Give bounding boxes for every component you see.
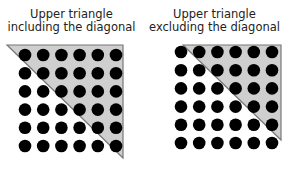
matrix-element-dot <box>248 46 261 59</box>
matrix-element-dot <box>110 49 123 62</box>
matrix-element-dot <box>266 46 279 59</box>
matrix-element-dot <box>92 140 105 153</box>
panel-excluding-diagonal: Upper triangle excluding the diagonal <box>143 0 286 169</box>
matrix-element-dot <box>37 49 50 62</box>
matrix-element-dot <box>19 85 32 98</box>
matrix-element-dot <box>92 103 105 116</box>
matrix-element-dot <box>211 119 224 132</box>
matrix-element-dot <box>19 103 32 116</box>
matrix-element-dot <box>266 119 279 132</box>
matrix-element-dot <box>73 122 86 135</box>
matrix-element-dot <box>193 64 206 77</box>
matrix-element-dot <box>19 122 32 135</box>
matrix-element-dot <box>110 122 123 135</box>
matrix-element-dot <box>229 46 242 59</box>
matrix-element-dot <box>55 140 68 153</box>
matrix-element-dot <box>193 119 206 132</box>
matrix-element-dot <box>19 67 32 80</box>
matrix-element-dot <box>110 103 123 116</box>
matrix-element-dot <box>55 122 68 135</box>
matrix-element-dot <box>73 103 86 116</box>
matrix-element-dot <box>229 137 242 150</box>
matrix-element-dot <box>229 100 242 113</box>
matrix-element-dot <box>175 64 188 77</box>
matrix-element-dot <box>110 140 123 153</box>
matrix-element-dot <box>211 82 224 95</box>
matrix-element-dot <box>211 46 224 59</box>
matrix-element-dot <box>73 49 86 62</box>
matrix-element-dot <box>92 122 105 135</box>
matrix-element-dot <box>248 64 261 77</box>
matrix-element-dot <box>110 67 123 80</box>
matrix-upper-triangle-incl <box>0 0 143 169</box>
matrix-element-dot <box>37 67 50 80</box>
matrix-element-dot <box>248 100 261 113</box>
matrix-element-dot <box>37 140 50 153</box>
matrix-element-dot <box>211 100 224 113</box>
matrix-element-dot <box>37 103 50 116</box>
matrix-element-dot <box>248 82 261 95</box>
matrix-element-dot <box>193 46 206 59</box>
matrix-element-dot <box>229 64 242 77</box>
matrix-element-dot <box>193 100 206 113</box>
matrix-element-dot <box>19 140 32 153</box>
matrix-element-dot <box>110 85 123 98</box>
matrix-element-dot <box>55 85 68 98</box>
panel-including-diagonal: Upper triangle including the diagonal <box>0 0 143 169</box>
matrix-element-dot <box>175 119 188 132</box>
matrix-element-dot <box>211 64 224 77</box>
matrix-element-dot <box>211 137 224 150</box>
matrix-upper-triangle-excl <box>143 0 286 169</box>
matrix-element-dot <box>175 100 188 113</box>
matrix-element-dot <box>175 137 188 150</box>
matrix-element-dot <box>55 67 68 80</box>
matrix-element-dot <box>266 137 279 150</box>
matrix-element-dot <box>266 82 279 95</box>
matrix-element-dot <box>229 119 242 132</box>
matrix-element-dot <box>55 103 68 116</box>
matrix-element-dot <box>73 140 86 153</box>
matrix-element-dot <box>229 82 242 95</box>
matrix-element-dot <box>92 49 105 62</box>
matrix-element-dot <box>37 122 50 135</box>
matrix-element-dot <box>266 100 279 113</box>
matrix-element-dot <box>73 85 86 98</box>
matrix-element-dot <box>92 85 105 98</box>
matrix-element-dot <box>37 85 50 98</box>
matrix-element-dot <box>73 67 86 80</box>
matrix-element-dot <box>175 82 188 95</box>
matrix-element-dot <box>248 137 261 150</box>
matrix-element-dot <box>248 119 261 132</box>
matrix-element-dot <box>266 64 279 77</box>
matrix-element-dot <box>175 46 188 59</box>
matrix-element-dot <box>193 82 206 95</box>
matrix-element-dot <box>55 49 68 62</box>
matrix-element-dot <box>193 137 206 150</box>
matrix-element-dot <box>19 49 32 62</box>
matrix-element-dot <box>92 67 105 80</box>
